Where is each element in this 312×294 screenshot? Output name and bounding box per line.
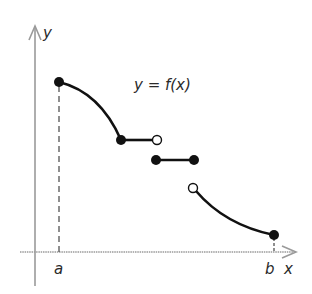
decreasing-curve-1 <box>59 82 121 140</box>
piecewise-function-graph: y y = f(x) a b x <box>0 0 312 294</box>
open-point-2 <box>189 184 198 193</box>
decreasing-curve-2 <box>196 191 274 235</box>
x-axis-label: x <box>283 260 293 278</box>
open-point-1 <box>153 136 162 145</box>
label-b: b <box>265 260 275 278</box>
closed-point-b <box>269 230 279 240</box>
function-label: y = f(x) <box>133 76 191 94</box>
closed-point-1 <box>116 135 126 145</box>
closed-point-2 <box>151 155 161 165</box>
closed-point-a <box>54 77 64 87</box>
label-a: a <box>54 260 63 278</box>
x-axis <box>20 246 296 258</box>
y-axis-label: y <box>42 24 53 42</box>
y-axis <box>29 26 41 286</box>
closed-point-3 <box>189 155 199 165</box>
